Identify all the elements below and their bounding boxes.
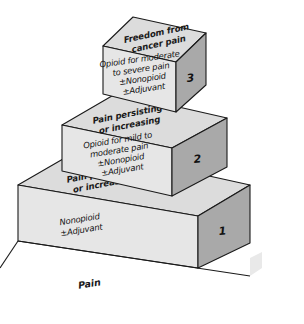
step-1-number: 1 <box>218 224 227 238</box>
ladder-illustration: 1 Pain persisting or increasing Nonopioi… <box>0 0 304 324</box>
ground-edge-line-left <box>0 241 18 268</box>
who-analgesic-ladder-diagram: 1 Pain persisting or increasing Nonopioi… <box>0 0 304 324</box>
ground-shadow <box>250 252 262 276</box>
pain-label: Pain <box>77 276 101 290</box>
